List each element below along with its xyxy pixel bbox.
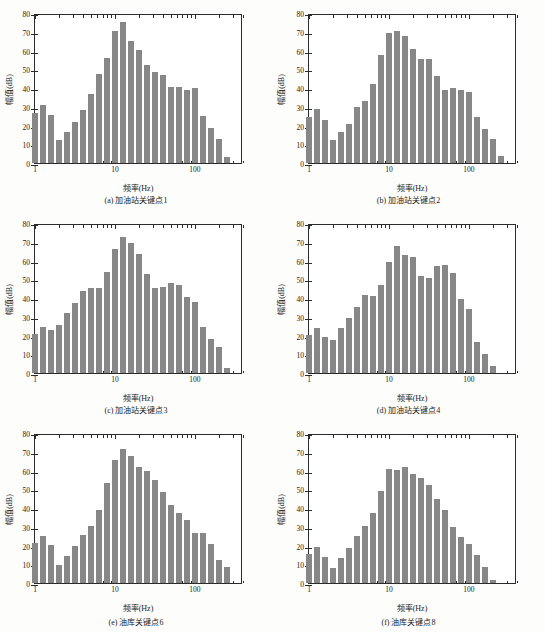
bar: [80, 110, 86, 163]
figure-grid: 幅值(dB)01020304050607080110100频率(Hz)(a) 加…: [0, 0, 545, 632]
x-axis-tick-label: 100: [463, 586, 474, 594]
bar: [88, 288, 94, 373]
bar: [168, 87, 174, 163]
panel-caption: (f) 油库关键点8: [272, 616, 545, 627]
bar: [498, 156, 504, 163]
y-axis-tick-label: 30: [297, 315, 305, 323]
bar: [370, 513, 376, 583]
x-axis-tick-label: 1: [307, 376, 311, 384]
bar: [32, 543, 38, 583]
y-axis-tick-label: 20: [297, 334, 305, 342]
x-axis-tick-label: 10: [111, 586, 119, 594]
bar: [136, 467, 142, 583]
bar: [410, 49, 416, 163]
bar: [144, 65, 150, 163]
x-axis-tick-label: 10: [385, 586, 393, 594]
bar: [160, 75, 166, 164]
bar: [426, 278, 432, 373]
panel-caption: (e) 油库关键点6: [0, 616, 272, 627]
bar: [56, 140, 62, 163]
plot-area: 01020304050607080110100: [308, 434, 516, 584]
bar: [426, 59, 432, 163]
chart-panel-e: 幅值(dB)01020304050607080110100频率(Hz)(e) 油…: [0, 420, 272, 632]
bar: [40, 536, 46, 583]
bar: [458, 537, 464, 583]
bar: [128, 456, 134, 584]
bar: [152, 480, 158, 583]
bar: [354, 307, 360, 373]
bar: [314, 328, 320, 373]
bar: [200, 327, 206, 373]
y-axis-tick-label: 10: [23, 563, 31, 571]
bar: [40, 327, 46, 373]
y-axis-tick-label: 50: [23, 488, 31, 496]
bar: [338, 132, 344, 163]
bar: [160, 287, 166, 373]
x-axis-tick-top: [517, 225, 518, 228]
y-axis-tick-label: 80: [297, 221, 305, 229]
panel-caption: (c) 加油站关键点3: [0, 404, 272, 415]
x-axis-title: 频率(Hz): [308, 182, 516, 193]
y-axis-tick-label: 10: [297, 353, 305, 361]
chart-panel-c: 幅值(dB)01020304050607080110100频率(Hz)(c) 加…: [0, 210, 272, 420]
bar: [306, 554, 312, 583]
bar: [64, 313, 70, 373]
y-axis-title: 幅值(dB): [274, 14, 286, 164]
bar: [184, 520, 190, 583]
bar: [208, 339, 214, 373]
y-axis-tick-label: 20: [23, 124, 31, 132]
bar: [88, 94, 94, 163]
bar: [120, 449, 126, 583]
y-axis-tick-label: 10: [297, 563, 305, 571]
bar: [168, 505, 174, 583]
x-axis-tick-top: [243, 15, 244, 18]
bar: [32, 334, 38, 373]
bar: [192, 533, 198, 583]
bar: [490, 139, 496, 163]
y-axis-title: 幅值(dB): [274, 434, 286, 584]
bar: [176, 87, 182, 163]
bar: [176, 285, 182, 373]
x-axis-tick: [517, 371, 518, 374]
bar: [96, 288, 102, 373]
x-axis-tick-label: 100: [463, 166, 474, 174]
bar: [96, 510, 102, 583]
y-axis-title-text: 幅值(dB): [3, 494, 14, 525]
bar-series: [309, 15, 515, 163]
chart-panel-a: 幅值(dB)01020304050607080110100频率(Hz)(a) 加…: [0, 0, 272, 210]
bar: [362, 101, 368, 163]
x-axis-title: 频率(Hz): [34, 182, 242, 193]
bar: [48, 330, 54, 374]
panel-caption: (d) 加油站关键点4: [272, 404, 545, 415]
bar: [394, 246, 400, 373]
y-axis-tick-label: 80: [297, 11, 305, 19]
bar: [80, 535, 86, 583]
bar: [434, 499, 440, 583]
bar: [200, 533, 206, 583]
bar: [40, 105, 46, 163]
y-axis-tick-label: 40: [23, 86, 31, 94]
bar: [80, 291, 86, 373]
bar: [216, 139, 222, 163]
y-axis-tick-label: 70: [23, 240, 31, 248]
bar: [370, 84, 376, 163]
bar-series: [309, 225, 515, 373]
y-axis-tick-label: 50: [23, 68, 31, 76]
bar: [338, 558, 344, 583]
bar: [322, 337, 328, 373]
bar: [208, 544, 214, 583]
x-axis-title: 频率(Hz): [34, 602, 242, 613]
bar-series: [309, 435, 515, 583]
x-axis-tick: [517, 581, 518, 584]
bar: [394, 470, 400, 583]
y-axis-tick-label: 0: [26, 371, 30, 379]
y-axis-tick-label: 40: [23, 296, 31, 304]
bar: [458, 299, 464, 373]
bar: [306, 117, 312, 163]
x-axis-tick-label: 100: [463, 376, 474, 384]
bar: [418, 478, 424, 583]
bar: [466, 92, 472, 163]
y-axis-tick-label: 80: [23, 11, 31, 19]
panel-caption: (a) 加油站关键点1: [0, 194, 272, 205]
bar: [72, 122, 78, 163]
